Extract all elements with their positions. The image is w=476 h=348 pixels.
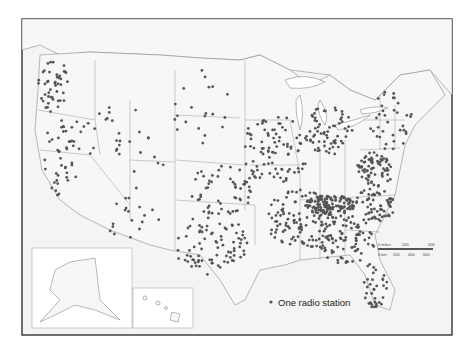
radio-station-dot — [316, 130, 319, 133]
radio-station-dot — [299, 189, 302, 192]
radio-station-dot — [287, 218, 290, 221]
radio-station-dot — [256, 165, 259, 168]
radio-station-dot — [50, 187, 53, 190]
radio-station-dot — [242, 230, 245, 233]
radio-station-dot — [191, 195, 194, 198]
radio-station-dot — [402, 125, 405, 128]
radio-station-dot — [211, 212, 214, 215]
radio-station-dot — [385, 281, 388, 284]
scale-km-tick-600: 600 — [423, 252, 430, 257]
radio-station-dot — [108, 111, 111, 114]
radio-station-dot — [174, 103, 177, 106]
radio-station-dot — [347, 206, 350, 209]
radio-station-dot — [350, 246, 353, 249]
radio-station-dot — [48, 140, 51, 143]
radio-station-dot — [386, 173, 389, 176]
radio-station-dot — [325, 206, 328, 209]
radio-station-dot — [340, 238, 343, 241]
radio-station-dot — [328, 151, 331, 154]
radio-station-dot — [87, 122, 90, 125]
radio-station-dot — [338, 200, 341, 203]
radio-station-dot — [47, 80, 50, 83]
radio-station-dot — [73, 140, 76, 143]
radio-station-dot — [377, 162, 380, 165]
radio-station-dot — [363, 281, 366, 284]
radio-station-dot — [111, 119, 114, 122]
radio-station-dot — [56, 182, 59, 185]
radio-station-dot — [351, 129, 354, 132]
radio-station-dot — [115, 202, 118, 205]
radio-station-dot — [366, 206, 369, 209]
radio-station-dot — [128, 197, 131, 200]
radio-station-dot — [233, 196, 236, 199]
radio-station-dot — [304, 194, 307, 197]
radio-station-dot — [309, 138, 312, 141]
radio-station-dot — [372, 199, 375, 202]
radio-station-dot — [206, 273, 209, 276]
radio-station-dot — [274, 152, 277, 155]
radio-station-dot — [291, 190, 294, 193]
radio-station-dot — [274, 231, 277, 234]
radio-station-dot — [362, 232, 365, 235]
radio-station-dot — [359, 230, 362, 233]
radio-station-dot — [244, 145, 247, 148]
radio-station-dot — [376, 135, 379, 138]
radio-station-dot — [261, 173, 264, 176]
radio-station-dot — [355, 243, 358, 246]
radio-station-dot — [59, 78, 62, 81]
scale-miles-tick-200: 200 — [402, 242, 409, 247]
scale-km-label: 0 km — [378, 252, 387, 257]
radio-station-dot — [295, 191, 298, 194]
radio-station-dot — [49, 110, 52, 113]
radio-station-dot — [321, 224, 324, 227]
radio-station-dot — [89, 152, 92, 155]
radio-station-dot — [208, 258, 211, 261]
radio-station-dot — [141, 221, 144, 224]
radio-station-dot — [375, 285, 378, 288]
radio-station-dot — [300, 229, 303, 232]
radio-station-dot — [361, 191, 364, 194]
radio-station-dot — [309, 191, 312, 194]
radio-station-dot — [347, 116, 350, 119]
radio-station-dot — [371, 244, 374, 247]
radio-station-dot — [234, 185, 237, 188]
radio-station-dot — [184, 259, 187, 262]
radio-station-dot — [295, 137, 298, 140]
radio-station-dot — [334, 199, 337, 202]
radio-station-dot — [270, 233, 273, 236]
radio-station-dot — [275, 145, 278, 148]
radio-station-dot — [325, 223, 328, 226]
radio-station-dot — [246, 132, 249, 135]
radio-station-dot — [357, 226, 360, 229]
radio-station-dot — [382, 130, 385, 133]
radio-station-dot — [332, 146, 335, 149]
radio-station-dot — [351, 260, 354, 263]
radio-station-dot — [242, 250, 245, 253]
radio-station-dot — [385, 143, 388, 146]
radio-station-dot — [376, 210, 379, 213]
radio-station-dot — [197, 198, 200, 201]
radio-station-dot — [54, 81, 57, 84]
radio-station-dot — [49, 88, 52, 91]
radio-station-dot — [245, 163, 248, 166]
radio-station-dot — [37, 82, 40, 85]
radio-station-dot — [367, 243, 370, 246]
radio-station-dot — [383, 190, 386, 193]
radio-station-dot — [198, 265, 201, 268]
radio-station-dot — [334, 196, 337, 199]
radio-station-dot — [331, 203, 334, 206]
radio-station-dot — [274, 220, 277, 223]
radio-station-dot — [367, 182, 370, 185]
radio-station-dot — [247, 196, 250, 199]
radio-station-dot — [63, 99, 66, 102]
radio-station-dot — [249, 145, 252, 148]
radio-station-dot — [343, 202, 346, 205]
radio-station-dot — [194, 261, 197, 264]
radio-station-dot — [336, 259, 339, 262]
radio-station-dot — [340, 140, 343, 143]
radio-station-dot — [326, 256, 329, 259]
radio-station-dot — [363, 189, 366, 192]
radio-station-dot — [361, 176, 364, 179]
radio-station-dot — [249, 190, 252, 193]
radio-station-dot — [106, 117, 109, 120]
